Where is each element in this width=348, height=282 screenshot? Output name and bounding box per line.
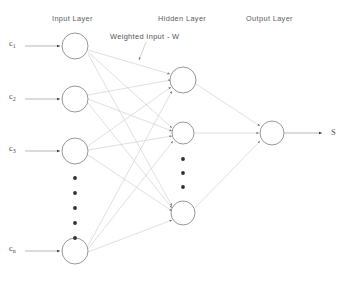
input-node-1 <box>62 33 88 59</box>
edges-hidden-to-output <box>194 84 260 208</box>
edge-i2-h3 <box>88 103 172 208</box>
annotation-leader-line <box>139 42 146 60</box>
input-layer-nodes <box>62 33 88 264</box>
input-arrows <box>25 46 60 251</box>
hidden-ellipsis <box>181 157 185 189</box>
edge-i3-h1 <box>88 87 171 146</box>
input-node-2 <box>62 86 88 112</box>
input-label-c1-sub: 1 <box>13 43 16 49</box>
edge-h1-o1 <box>196 84 260 126</box>
hidden-layer-title: Hidden Layer <box>158 14 206 23</box>
edge-i2-h2 <box>88 99 172 131</box>
weighted-input-annotation: Weighted Input - W <box>110 32 179 41</box>
hidden-node-3 <box>171 201 195 225</box>
edge-i1-h1 <box>88 50 170 74</box>
edge-h3-o1 <box>195 141 260 208</box>
output-layer-title: Output Layer <box>246 14 293 23</box>
output-node-1 <box>260 121 284 145</box>
input-label-c3-sub: 3 <box>13 148 16 154</box>
input-label-c2-sub: 2 <box>13 96 16 102</box>
output-label-s: S <box>331 127 336 137</box>
input-label-cn: cn <box>9 243 16 254</box>
edge-i3-h2 <box>88 136 172 150</box>
input-node-3 <box>62 138 88 164</box>
input-ellipsis <box>73 176 77 240</box>
neural-network-diagram: Input Layer Hidden Layer Output Layer We… <box>0 0 348 282</box>
edge-in-h3 <box>88 220 172 252</box>
edge-i2-h1 <box>88 80 171 95</box>
input-label-c1: c1 <box>9 38 16 49</box>
input-node-n <box>62 238 88 264</box>
input-layer-title: Input Layer <box>52 14 93 23</box>
edge-in-h1 <box>88 91 172 246</box>
hidden-layer-nodes <box>170 67 196 225</box>
input-label-cn-sub: n <box>13 248 16 254</box>
hidden-node-1 <box>170 67 196 93</box>
input-label-c2: c2 <box>9 91 16 102</box>
edge-in-h2 <box>88 141 173 249</box>
network-graphics <box>0 0 348 282</box>
hidden-node-2 <box>172 122 194 144</box>
edge-i1-h2 <box>88 52 172 128</box>
edges-input-to-hidden <box>88 50 173 252</box>
input-label-c3: c3 <box>9 143 16 154</box>
